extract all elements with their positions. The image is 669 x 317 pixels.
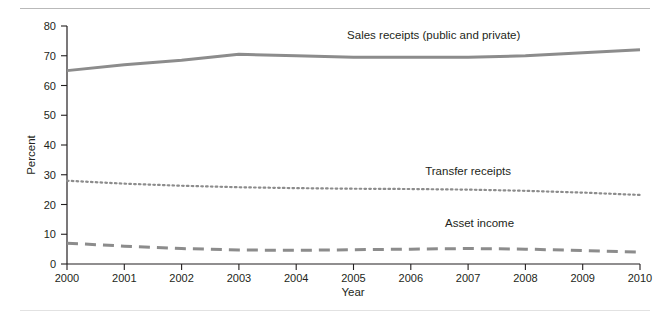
data-series-group	[67, 50, 640, 252]
y-tick-label: 40	[44, 139, 56, 151]
annotation-sales-receipts-public-and-private: Sales receipts (public and private)	[347, 29, 520, 41]
x-tick-label: 2002	[169, 272, 193, 284]
x-tick-label: 2003	[227, 272, 251, 284]
y-tick-label: 30	[44, 169, 56, 181]
y-axis-ticks	[61, 26, 67, 264]
series-line-asset-income	[67, 243, 640, 252]
x-tick-label: 2009	[570, 272, 594, 284]
y-tick-label: 10	[44, 228, 56, 240]
x-tick-label: 2000	[55, 272, 79, 284]
annotation-asset-income: Asset income	[445, 217, 514, 229]
line-chart-plot: 01020304050607080 2000200120022003200420…	[0, 0, 669, 317]
x-tick-label: 2010	[628, 272, 652, 284]
y-tick-label: 80	[44, 20, 56, 32]
y-tick-label: 70	[44, 50, 56, 62]
x-tick-label: 2004	[284, 272, 308, 284]
annotation-transfer-receipts: Transfer receipts	[425, 165, 511, 177]
series-line-transfer-receipts	[67, 181, 640, 195]
y-tick-label: 0	[50, 258, 56, 270]
y-tick-label: 50	[44, 109, 56, 121]
x-tick-label: 2008	[513, 272, 537, 284]
x-axis-title: Year	[341, 286, 364, 298]
x-axis-tick-labels: 2000200120022003200420052006200720082009…	[55, 272, 652, 284]
y-tick-label: 20	[44, 199, 56, 211]
y-axis-title: Percent	[25, 134, 37, 174]
x-tick-label: 2007	[456, 272, 480, 284]
x-tick-label: 2005	[341, 272, 365, 284]
y-tick-label: 60	[44, 80, 56, 92]
x-tick-label: 2001	[112, 272, 136, 284]
x-tick-label: 2006	[399, 272, 423, 284]
series-annotations: Sales receipts (public and private)Trans…	[347, 29, 520, 228]
x-axis-ticks	[67, 264, 640, 270]
y-axis-tick-labels: 01020304050607080	[44, 20, 56, 270]
series-line-sales-receipts-public-and-private	[67, 50, 640, 71]
chart-figure: 01020304050607080 2000200120022003200420…	[0, 0, 669, 317]
